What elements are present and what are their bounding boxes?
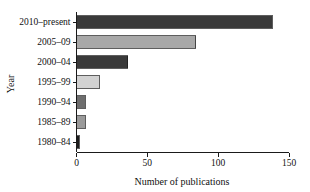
x-ticks-group bbox=[77, 153, 290, 157]
x-tick-labels-group: 050100150 bbox=[74, 158, 296, 168]
y-tick-label-2005-09: 2005–09 bbox=[37, 37, 71, 47]
y-tick-label-1985-89: 1985–89 bbox=[37, 117, 71, 127]
y-tick-label-1980-84: 1980–84 bbox=[37, 137, 71, 147]
x-tick-label-100: 100 bbox=[211, 158, 226, 168]
y-tick-label-1995-99: 1995–99 bbox=[37, 77, 71, 87]
publications-by-year-bar-chart: 1980–841985–891990–941995–992000–042005–… bbox=[0, 0, 310, 192]
x-axis-title: Number of publications bbox=[135, 176, 230, 187]
chart-plot-area: 1980–841985–891990–941995–992000–042005–… bbox=[0, 0, 310, 192]
y-tick-label-2010-present: 2010–present bbox=[19, 17, 71, 27]
y-axis-title: Year bbox=[5, 74, 16, 93]
bar-2010-present bbox=[77, 16, 273, 28]
x-tick-label-0: 0 bbox=[74, 158, 79, 168]
y-tick-label-1990-94: 1990–94 bbox=[37, 97, 71, 107]
y-tick-labels-group: 1980–841985–891990–941995–992000–042005–… bbox=[19, 17, 71, 147]
bar-1995-99 bbox=[77, 76, 100, 88]
y-ticks-group bbox=[73, 22, 77, 142]
x-tick-label-150: 150 bbox=[282, 158, 297, 168]
bar-2005-09 bbox=[77, 36, 196, 48]
bar-1985-89 bbox=[77, 116, 86, 128]
x-tick-label-50: 50 bbox=[143, 158, 153, 168]
axes-group bbox=[77, 12, 290, 153]
bar-1990-94 bbox=[77, 96, 86, 108]
bars-group bbox=[77, 16, 273, 148]
bar-2000-04 bbox=[77, 56, 128, 68]
y-tick-label-2000-04: 2000–04 bbox=[37, 57, 71, 67]
